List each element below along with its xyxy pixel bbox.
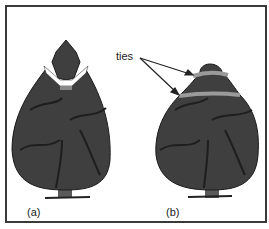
bush-b [156,64,259,198]
panel-label-b: (b) [166,206,179,218]
ties-annotation: ties [116,50,133,62]
tie-a [60,86,72,90]
panel-label-a: (a) [27,206,40,218]
bush-a [12,40,110,198]
illustration [0,0,269,229]
